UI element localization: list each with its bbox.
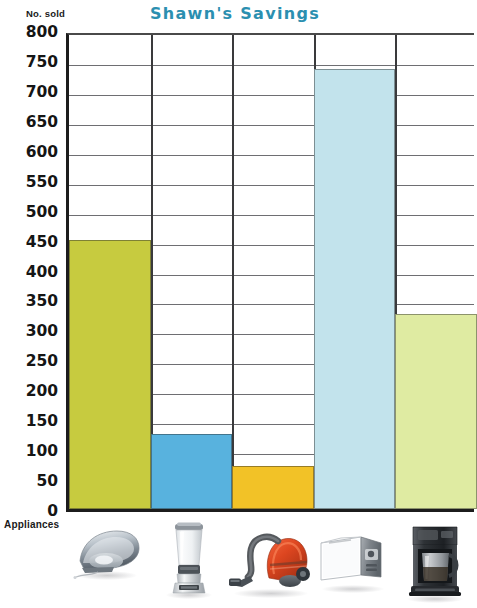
bar-iron[interactable] (69, 240, 151, 509)
appliance-cell-vacuum (230, 515, 312, 608)
y-tick-label: 0 (0, 504, 58, 520)
vacuum-shadow (234, 589, 308, 598)
y-tick-label: 150 (0, 414, 58, 430)
y-axis-caption: No. sold (26, 8, 65, 19)
y-tick-label: 50 (0, 474, 58, 490)
plot-area (66, 33, 474, 512)
appliance-cell-blender (148, 515, 230, 608)
bar-coffee-maker[interactable] (395, 314, 477, 509)
y-tick-label: 500 (0, 205, 58, 221)
gridline-horizontal (69, 95, 474, 96)
y-tick-label: 750 (0, 55, 58, 71)
gridline-horizontal (69, 125, 474, 126)
y-tick-label: 650 (0, 115, 58, 131)
y-tick-label: 100 (0, 444, 58, 460)
gridline-horizontal (69, 155, 474, 156)
y-tick-label: 550 (0, 175, 58, 191)
appliance-cell-iron (66, 515, 148, 608)
y-tick-label: 250 (0, 354, 58, 370)
chart-title: Shawn's Savings (150, 4, 450, 23)
y-tick-label: 450 (0, 235, 58, 251)
appliance-cell-toaster (312, 515, 394, 608)
y-tick-label: 800 (0, 25, 58, 41)
toaster-shadow (322, 585, 384, 593)
coffee-maker-icon (404, 523, 466, 603)
y-tick-label: 600 (0, 145, 58, 161)
y-tick-label: 400 (0, 265, 58, 281)
gridline-horizontal (69, 65, 474, 66)
y-tick-label: 200 (0, 384, 58, 400)
vacuum-cleaner-icon (228, 529, 314, 595)
bar-vacuum-cleaner[interactable] (232, 466, 314, 509)
gridline-horizontal (69, 215, 474, 216)
x-axis-caption: Appliances (4, 519, 59, 530)
y-tick-label: 700 (0, 85, 58, 101)
y-tick-label: 350 (0, 294, 58, 310)
coffee-maker-shadow (407, 595, 463, 603)
blender-shadow (166, 591, 212, 599)
gridline-vertical (232, 35, 234, 509)
bar-blender[interactable] (151, 434, 233, 509)
toaster-icon (317, 531, 389, 591)
y-tick-label: 300 (0, 324, 58, 340)
appliance-image-row (66, 515, 474, 608)
bar-toaster[interactable] (314, 69, 396, 509)
iron-shadow (77, 571, 137, 580)
gridline-horizontal (69, 185, 474, 186)
appliance-cell-coffee-maker (394, 515, 476, 608)
